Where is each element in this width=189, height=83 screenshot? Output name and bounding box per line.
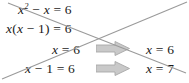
equation-row-3: x = 6 bbox=[52, 43, 80, 57]
result-top: x = 6 bbox=[146, 43, 174, 57]
right-arrow-icon bbox=[96, 61, 130, 76]
right-arrow-icon bbox=[96, 41, 130, 56]
equation-row-1-text: x2 bbox=[18, 2, 29, 17]
math-worksheet-figure: x2 − x = 6 x(x − 1) = 6 x = 6 x − 1 = 6 … bbox=[0, 0, 189, 83]
result-bottom: x = 7 bbox=[146, 62, 174, 76]
equation-row-1: x2 − x = 6 bbox=[18, 3, 72, 17]
equation-row-2: x(x − 1) = 6 bbox=[6, 22, 72, 36]
equation-row-4: x − 1 = 6 bbox=[25, 62, 75, 76]
